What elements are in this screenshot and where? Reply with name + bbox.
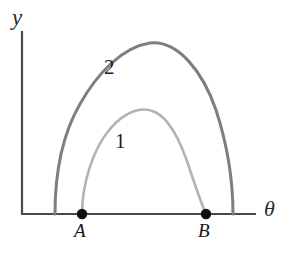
point-a-label: A	[74, 221, 86, 240]
y-axis-label: y	[12, 6, 22, 29]
curve-2-path	[55, 43, 233, 214]
x-axis-label: θ	[264, 198, 275, 220]
point-a-marker	[77, 209, 87, 219]
point-b-marker	[201, 209, 211, 219]
point-b-label: B	[198, 221, 210, 240]
curve-1-path	[82, 110, 206, 214]
curve-1-label: 1	[115, 131, 126, 152]
curve-2-label: 2	[104, 57, 115, 78]
figure-drawing	[0, 0, 293, 256]
figure-canvas: y θ A B 2 1	[0, 0, 293, 256]
